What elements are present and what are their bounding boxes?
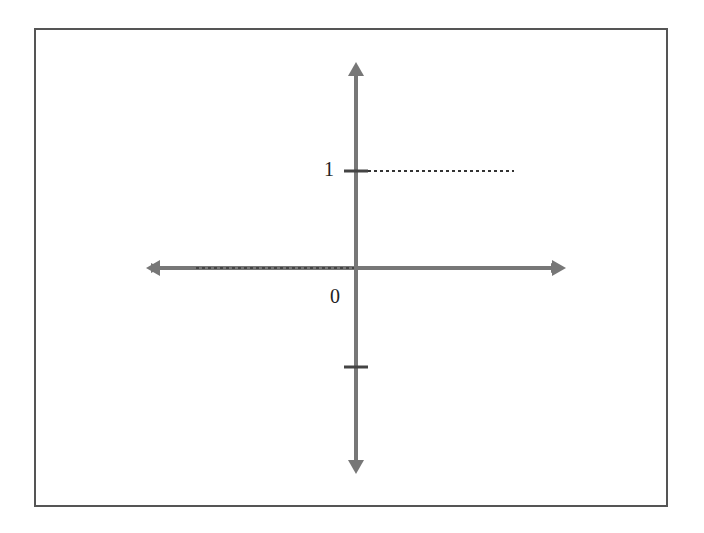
axes-diagram xyxy=(0,0,704,533)
x-axis-left-arrow-icon xyxy=(146,260,160,276)
label-one: 1 xyxy=(324,158,334,181)
y-axis-up-arrow-icon xyxy=(348,62,364,76)
y-axis-down-arrow-icon xyxy=(348,460,364,474)
x-axis-right-arrow-icon xyxy=(552,260,566,276)
label-zero: 0 xyxy=(330,285,340,308)
